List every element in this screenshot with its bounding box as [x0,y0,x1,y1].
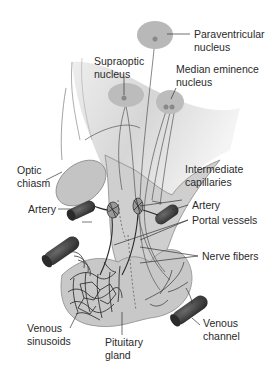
supraoptic-nucleus [108,83,144,107]
label-venous-sinusoids: Venous sinusoids [27,322,71,347]
label-median-eminence-nucleus: Median eminence nucleus [176,63,259,88]
label-intermediate-capillaries: Intermediate capillaries [185,163,243,188]
label-paraventricular-nucleus: Paraventricular nucleus [194,28,265,53]
label-artery-left: Artery [28,203,56,216]
label-pituitary-gland: Pituitary gland [105,336,143,361]
label-artery-right: Artery [192,199,220,212]
label-venous-channel: Venous channel [203,317,240,342]
median-eminence-nucleus [156,90,184,114]
label-portal-vessels: Portal vessels [192,214,257,227]
label-nerve-fibers: Nerve fibers [202,250,259,263]
label-supraoptic-nucleus: Supraoptic nucleus [94,55,144,80]
paraventricular-nucleus [137,21,173,49]
label-optic-chiasm: Optic chiasm [17,164,50,189]
